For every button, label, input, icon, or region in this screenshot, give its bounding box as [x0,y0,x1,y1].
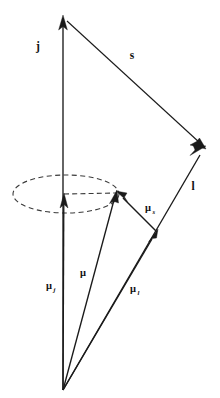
label-mu-l-base: μ [130,283,136,294]
vector-s-shaft [67,21,200,143]
label-l: l [191,180,194,192]
label-mu-l: μ l [130,283,140,296]
vector-l-arrowhead [190,145,206,156]
label-mu-s: μ s [145,202,156,215]
vector-diagram-canvas: j s l μ s μ μ j μ l [0,0,220,398]
label-mu: μ [80,267,86,278]
label-mu-s-base: μ [145,202,151,213]
vector-diagram-figure: j s l μ s μ μ j μ l [0,0,220,398]
vector-mu-l-shaft [63,239,152,390]
cone-radius-dashed-line [64,193,117,194]
vector-mu-j-shaft [63,202,64,390]
label-mu-l-subscript: l [138,289,140,296]
label-j: j [35,40,40,53]
vector-mu-s-shaft [123,198,157,232]
vector-mu-shaft [63,200,114,390]
label-mu-s-subscript: s [152,208,156,215]
label-mu-base: μ [80,267,86,278]
label-mu-j-base: μ [46,280,52,291]
label-s: s [130,49,135,61]
label-mu-j-subscript: j [53,286,56,293]
label-mu-j: μ j [46,280,56,293]
